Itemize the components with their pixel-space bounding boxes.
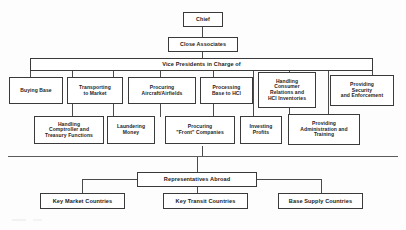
- connector-long-5: [253, 71, 254, 117]
- node-base-supply-countries-label: Base Supply Countries: [281, 198, 360, 204]
- scan-artifact-1: [12, 219, 26, 221]
- connector-reps-right: [257, 179, 321, 180]
- node-chief-label: Chief: [186, 16, 220, 22]
- node-providing-administration-training[interactable]: Providing Administration and Training: [288, 114, 360, 145]
- node-investing-line2: Profits: [243, 130, 279, 136]
- node-base-supply-countries[interactable]: Base Supply Countries: [278, 193, 363, 209]
- node-buying-base-label: Buying Base: [12, 88, 60, 94]
- scan-artifact-2: [33, 219, 42, 221]
- connector-to-base-supply: [321, 179, 322, 193]
- node-transporting-line2: to Market: [70, 91, 120, 97]
- node-consumer-line4: HCl Inventories: [261, 96, 313, 102]
- connector-to-key-market: [82, 179, 83, 193]
- node-transporting-to-market[interactable]: Transporting to Market: [67, 77, 123, 104]
- node-close-associates[interactable]: Close Associates: [168, 37, 238, 52]
- section-divider: [8, 156, 398, 157]
- node-procuring-aircraft-airfields[interactable]: Procuring Aircraft/Airfields: [128, 77, 196, 104]
- node-handling-consumer-relations[interactable]: Handling Consumer Relations and HCl Inve…: [258, 72, 316, 108]
- node-vice-presidents-label: Vice Presidents in Charge of: [33, 61, 370, 67]
- node-handling-comptroller-treasury[interactable]: Handling Comptroller and Treasury Functi…: [34, 116, 104, 144]
- node-processing-line2: Base to HCl: [203, 91, 250, 97]
- connector-to-key-transit: [197, 186, 198, 193]
- connector-divider-to-reps: [197, 157, 198, 172]
- node-chief[interactable]: Chief: [183, 12, 223, 27]
- node-processing-base-to-hcl[interactable]: Processing Base to HCl: [200, 77, 253, 104]
- node-providing-security-enforcement[interactable]: Providing Security and Enforcement: [330, 75, 394, 106]
- node-representatives-abroad[interactable]: Representatives Abroad: [137, 172, 257, 187]
- node-front-line2: "Front" Companies: [168, 130, 232, 136]
- node-procuring-front-companies[interactable]: Procuring "Front" Companies: [165, 116, 235, 144]
- connector-reps-left: [82, 179, 138, 180]
- node-administration-line3: Training: [291, 132, 357, 138]
- node-key-market-countries-label: Key Market Countries: [43, 198, 122, 204]
- node-aircraft-line2: Aircraft/Airfields: [131, 91, 193, 97]
- node-laundering-money[interactable]: Laundering Money: [107, 116, 155, 144]
- connector-level4-to-divider: [202, 146, 203, 156]
- node-close-associates-label: Close Associates: [171, 41, 235, 47]
- node-comptroller-line3: Treasury Functions: [37, 133, 101, 139]
- node-vice-presidents[interactable]: Vice Presidents in Charge of: [30, 58, 373, 71]
- node-representatives-abroad-label: Representatives Abroad: [140, 176, 254, 182]
- node-investing-profits[interactable]: Investing Profits: [240, 116, 282, 144]
- node-buying-base[interactable]: Buying Base: [9, 77, 63, 104]
- node-laundering-line2: Money: [110, 130, 152, 136]
- node-key-market-countries[interactable]: Key Market Countries: [40, 193, 125, 209]
- node-key-transit-countries[interactable]: Key Transit Countries: [163, 193, 248, 209]
- connector-long-7: [328, 71, 329, 117]
- node-key-transit-countries-label: Key Transit Countries: [166, 198, 245, 204]
- org-chart: Chief Close Associates Vice Presidents i…: [0, 0, 406, 230]
- node-security-line3: and Enforcement: [333, 93, 391, 99]
